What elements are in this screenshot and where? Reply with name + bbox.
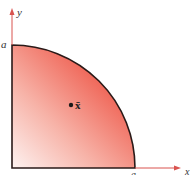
x-axis-arrow-icon <box>174 166 181 171</box>
centroid-dot-icon <box>69 103 73 107</box>
y-axis-label: y <box>16 6 22 18</box>
y-axis-arrow-icon <box>10 8 15 15</box>
quarter-circle-region <box>12 45 135 168</box>
radius-label-y: a <box>1 38 7 50</box>
x-axis <box>135 166 181 171</box>
centroid-label: x̄ <box>75 99 81 111</box>
y-axis <box>10 8 15 45</box>
x-axis-label: x <box>184 166 190 175</box>
quarter-circle-diagram: y x a a x̄ <box>0 0 190 175</box>
radius-label-x: a <box>131 169 136 175</box>
